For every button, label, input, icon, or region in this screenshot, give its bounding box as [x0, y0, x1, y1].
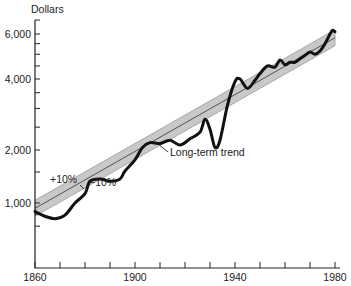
trend-pointer: [158, 144, 168, 152]
x-tick-label: 1940: [223, 271, 247, 283]
income-trend-chart: 18601900194019801,0002,0004,0006,000 Dol…: [0, 0, 351, 286]
x-tick-label: 1860: [23, 271, 47, 283]
y-tick-label: 6,000: [5, 28, 31, 40]
y-tick-label: 4,000: [5, 73, 31, 85]
y-tick-label: 2,000: [5, 144, 31, 156]
y-tick-label: 1,000: [5, 197, 31, 209]
plus-10-label: +10%: [50, 173, 77, 185]
minus-10-label: −10%: [89, 176, 116, 188]
trend-label: Long-term trend: [170, 146, 245, 158]
x-tick-label: 1980: [323, 271, 347, 283]
trend-band: [35, 30, 335, 217]
x-tick-label: 1900: [123, 271, 147, 283]
y-axis-title: Dollars: [31, 3, 64, 15]
